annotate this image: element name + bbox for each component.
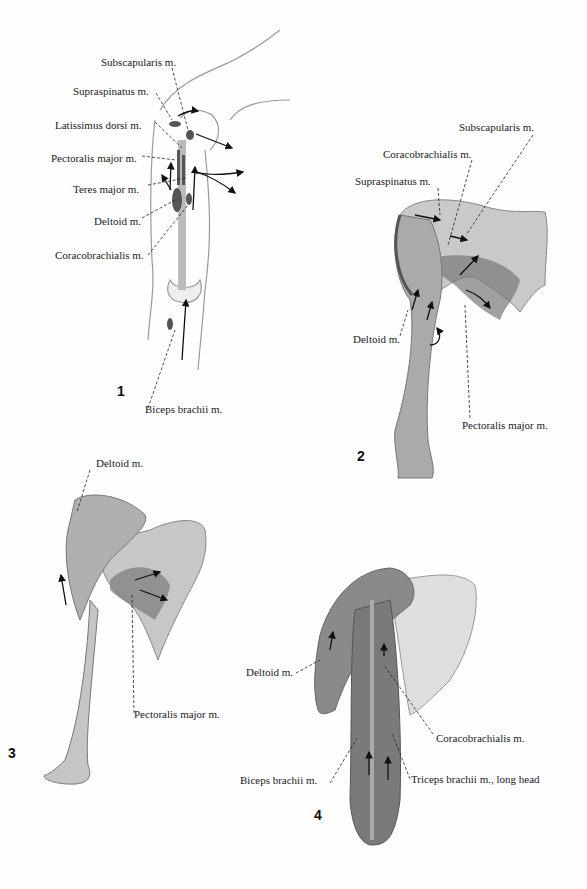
fig4-label-deltoid: Deltoid m. — [246, 667, 293, 678]
fig3-label-deltoid: Deltoid m. — [96, 458, 143, 469]
fig4-label-biceps-brachii: Biceps brachii m. — [240, 775, 317, 786]
fig4-label-triceps-long-head: Triceps brachii m., long head — [411, 774, 540, 785]
figure-1-number: 1 — [117, 383, 125, 399]
fig2-label-supraspinatus: Supraspinatus m. — [355, 176, 431, 187]
fig1-label-teres-major: Teres major m. — [73, 184, 139, 195]
figure-4-illustration — [315, 568, 477, 845]
fig2-label-subscapularis: Subscapularis m. — [459, 122, 534, 133]
fig3-label-pectoralis-major: Pectoralis major m. — [134, 709, 220, 720]
fig1-label-deltoid: Deltoid m. — [94, 216, 141, 227]
fig4-label-coracobrachialis: Coracobrachialis m. — [436, 733, 525, 744]
figure-3-illustration — [44, 495, 206, 784]
figure-4-number: 4 — [314, 807, 322, 823]
fig1-label-supraspinatus: Supraspinatus m. — [73, 86, 149, 97]
fig1-label-latissimus-dorsi: Latissimus dorsi m. — [55, 120, 141, 131]
anatomy-illustrations — [0, 0, 587, 889]
figure-2-number: 2 — [357, 448, 365, 464]
fig1-label-pectoralis-major: Pectoralis major m. — [51, 153, 137, 164]
fig1-label-subscapularis: Subscapularis m. — [101, 57, 176, 68]
figure-2-illustration — [395, 200, 548, 478]
fig1-label-coracobrachialis: Coracobrachialis m. — [55, 250, 144, 261]
fig1-label-biceps-brachii: Biceps brachii m. — [145, 404, 222, 415]
fig2-label-coracobrachialis: Coracobrachialis m. — [383, 149, 472, 160]
figure-3-number: 3 — [8, 745, 16, 761]
fig2-label-pectoralis-major: Pectoralis major m. — [462, 420, 548, 431]
fig2-label-deltoid: Deltoid m. — [353, 334, 400, 345]
